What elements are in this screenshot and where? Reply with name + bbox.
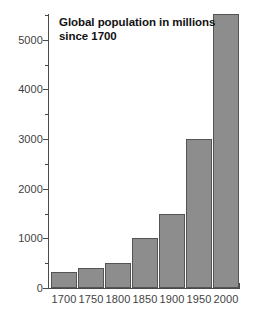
- bar-2000: [213, 14, 239, 288]
- bar-1800: [105, 263, 131, 288]
- chart-title: Global population in millions since 1700: [59, 15, 219, 43]
- bar-1950: [186, 139, 212, 288]
- y-tick-major-0: [43, 288, 49, 289]
- x-axis-line: [48, 288, 240, 289]
- x-axis-end-cap: [239, 283, 240, 289]
- population-bar-chart: 0 1000 2000 3000 4000 5000 1700 1750 180…: [0, 0, 256, 316]
- plot-area: [49, 14, 239, 288]
- bar-1850: [132, 238, 158, 288]
- bar-1900: [159, 214, 185, 288]
- chart-title-line-1: Global population in millions: [59, 15, 219, 29]
- chart-title-line-2: since 1700: [59, 29, 219, 43]
- bar-1750: [78, 268, 104, 288]
- y-axis-label-2000: 2000: [18, 184, 43, 195]
- y-axis-label-5000: 5000: [18, 35, 43, 46]
- bar-1700: [51, 272, 77, 288]
- x-axis-label-2000: 2000: [198, 293, 254, 305]
- y-axis-label-3000: 3000: [18, 134, 43, 145]
- y-axis-label-4000: 4000: [18, 84, 43, 95]
- y-axis-label-1000: 1000: [18, 233, 43, 244]
